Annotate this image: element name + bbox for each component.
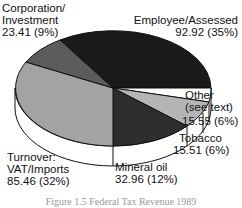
- label-corporation: Corporation/ Investment 23.41 (9%): [2, 2, 65, 38]
- label-value: 15.51 (6%): [173, 144, 229, 156]
- label-text: Other: [185, 89, 233, 101]
- label-value: 92.92 (35%): [134, 26, 238, 38]
- label-value: 23.41 (9%): [2, 26, 65, 38]
- label-text: Turnover:: [7, 151, 70, 163]
- label-mineral-oil: Mineral oil 32.96 (12%): [115, 161, 178, 185]
- label-other-value: 15.55 (6%): [182, 115, 238, 127]
- label-employee: Employee/Assessed 92.92 (35%): [134, 14, 238, 38]
- label-text: Tobacco: [173, 132, 229, 144]
- label-text: Investment: [2, 14, 65, 26]
- label-tobacco: Tobacco 15.51 (6%): [173, 132, 229, 156]
- label-text: VAT/Imports: [7, 163, 70, 175]
- label-value: 32.96 (12%): [115, 173, 178, 185]
- label-text: Corporation/: [2, 2, 65, 14]
- figure-caption: Figure 1.5 Federal Tax Revenue 1989: [0, 196, 242, 207]
- label-text: Employee/Assessed: [134, 14, 238, 26]
- label-text: Mineral oil: [115, 161, 178, 173]
- label-turnover: Turnover: VAT/Imports 85.46 (32%): [7, 151, 70, 187]
- label-other: Other (see text): [185, 89, 233, 113]
- label-text: (see text): [185, 101, 233, 113]
- label-value: 85.46 (32%): [7, 175, 70, 187]
